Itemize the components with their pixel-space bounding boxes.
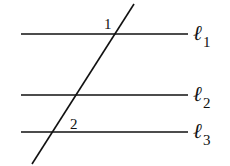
svg-text:1: 1 xyxy=(203,34,211,50)
line-l2-label: ℓ 2 xyxy=(193,82,211,111)
svg-text:ℓ: ℓ xyxy=(193,82,202,106)
angle-1-label: 1 xyxy=(104,16,112,32)
svg-text:3: 3 xyxy=(203,132,211,148)
svg-text:2: 2 xyxy=(203,95,211,111)
svg-text:ℓ: ℓ xyxy=(193,119,202,143)
line-l1-label: ℓ 1 xyxy=(193,21,211,50)
transversal-line xyxy=(32,4,134,164)
line-l3-label: ℓ 3 xyxy=(193,119,211,148)
parallel-lines-diagram: 1 2 ℓ 1 ℓ 2 ℓ 3 xyxy=(0,0,230,166)
angle-2-label: 2 xyxy=(70,116,78,132)
svg-text:ℓ: ℓ xyxy=(193,21,202,45)
